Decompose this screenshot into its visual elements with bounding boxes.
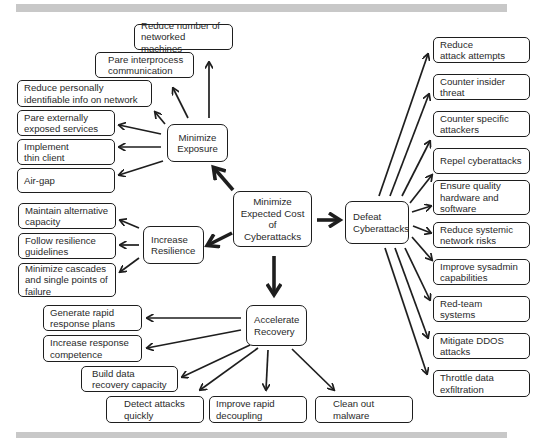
- node-repel-cyberattacks: Repel cyberattacks: [433, 148, 530, 174]
- node-reduce-pii: Reduce personally identifiable info on n…: [17, 80, 152, 107]
- node-increase-response-competence: Increase response competence: [43, 335, 142, 362]
- node-improve-rapid-decoupling: Improve rapid decoupling: [209, 396, 307, 423]
- node-throttle-data-exfiltration: Throttle data exfiltration: [433, 370, 530, 397]
- node-generate-rapid-response-plans: Generate rapid response plans: [43, 305, 142, 331]
- hub-defeat-cyberattacks: Defeat Cyberattacks: [345, 201, 409, 244]
- node-maintain-alternative-capacity: Maintain alternative capacity: [18, 203, 116, 229]
- node-detect-attacks-quickly: Detect attacks quickly: [106, 396, 204, 423]
- node-counter-insider-threat: Counter insider threat: [433, 74, 530, 100]
- node-ensure-quality-hw-sw: Ensure quality hardware and software: [433, 180, 530, 215]
- node-counter-specific-attackers: Counter specific attackers: [433, 111, 530, 137]
- node-air-gap: Air-gap: [17, 168, 115, 193]
- node-reduce-attack-attempts: Reduce attack attempts: [433, 37, 530, 63]
- hub-increase-resilience: Increase Resilience: [143, 226, 204, 264]
- root-node: Minimize Expected Cost of Cyberattacks: [233, 191, 312, 247]
- node-clean-out-malware: Clean out malware: [315, 396, 413, 423]
- node-pare-interprocess-communication: Pare interprocess communication: [95, 52, 194, 78]
- node-follow-resilience-guidelines: Follow resilience guidelines: [18, 233, 116, 259]
- node-improve-sysadmin-capabilities: Improve sysadmin capabilities: [433, 259, 530, 285]
- node-reduce-networked-machines: Reduce number of networked machines: [134, 24, 233, 50]
- node-red-team-systems: Red-team systems: [433, 296, 530, 322]
- node-build-data-recovery-capacity: Build data recovery capacity: [81, 366, 178, 392]
- hub-accelerate-recovery: Accelerate Recovery: [246, 305, 307, 346]
- node-implement-thin-client: Implement thin client: [17, 139, 115, 165]
- hub-minimize-exposure: Minimize Exposure: [167, 124, 228, 162]
- node-minimize-cascades: Minimize cascades and single points of f…: [18, 263, 116, 297]
- node-pare-exposed-services: Pare externally exposed services: [17, 110, 115, 136]
- node-mitigate-ddos-attacks: Mitigate DDOS attacks: [433, 333, 530, 359]
- node-reduce-systemic-network-risks: Reduce systemic network risks: [433, 222, 530, 248]
